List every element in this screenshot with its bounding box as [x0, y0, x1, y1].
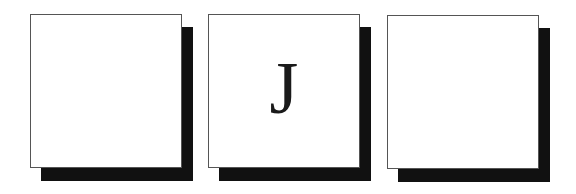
- tile-face: [387, 15, 539, 169]
- letter-tile-2[interactable]: J: [208, 14, 360, 168]
- letter-tile-1[interactable]: [30, 14, 182, 168]
- tile-face: J: [208, 14, 360, 168]
- tile-face: [30, 14, 182, 168]
- letter-tile-3[interactable]: [387, 15, 539, 169]
- tile-letter: J: [270, 51, 299, 125]
